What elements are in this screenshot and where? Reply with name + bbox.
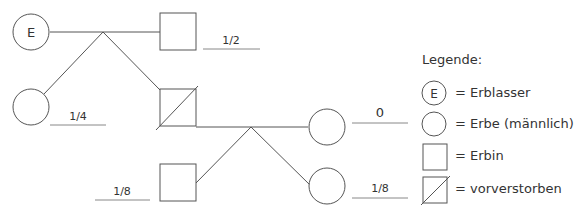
share-zero: 0 [376, 105, 384, 120]
legend-item-erbin: = Erbin [455, 148, 504, 163]
legend-item-vorverstorben: = vorverstorben [455, 181, 562, 196]
node-erbe-left [13, 89, 49, 125]
share-half: 1/2 [222, 34, 240, 47]
legend-icons: E [421, 81, 450, 205]
line-to-granddaughter [196, 127, 251, 183]
node-erbe-right [309, 109, 345, 145]
node-erbin-bottom [160, 164, 196, 201]
legend-title: Legende: [422, 52, 482, 67]
legend-item-erblasser: = Erblasser [455, 85, 530, 100]
node-erbin-top [160, 13, 196, 50]
share-eighth-right: 1/8 [371, 182, 389, 195]
svg-text:E: E [430, 87, 438, 101]
line-to-deceased [103, 32, 160, 90]
share-eighth-left: 1/8 [113, 185, 131, 198]
legend-erbin-icon [423, 144, 447, 170]
line-to-son-left [44, 32, 103, 94]
legend-erbe-icon [422, 112, 446, 136]
line-to-grandson [251, 127, 311, 186]
share-quarter: 1/4 [69, 110, 87, 123]
svg-text:E: E [27, 25, 35, 40]
legend-item-erbe: = Erbe (männlich) [455, 116, 574, 131]
node-vorverstorben [156, 86, 198, 130]
node-erblasser: E [13, 14, 49, 50]
node-erbe-bottom [309, 168, 345, 204]
